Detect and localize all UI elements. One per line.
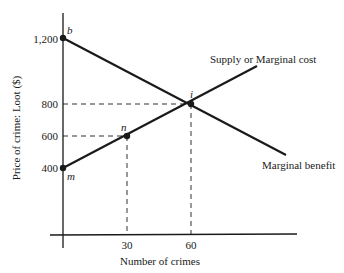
x-tick-60: 60: [186, 239, 198, 251]
x-tick-30: 30: [122, 239, 134, 251]
y-tick-600: 600: [42, 130, 59, 142]
supply-line: [63, 66, 257, 168]
marginal-benefit-label: Marginal benefit: [262, 159, 335, 171]
point-label-i: i: [190, 88, 193, 100]
point-label-b: b: [67, 24, 73, 36]
y-tick-1200: 1,200: [33, 33, 58, 45]
y-tick-800: 800: [42, 98, 59, 110]
y-tick-400: 400: [42, 162, 59, 174]
y-axis-title: Price of crime: Loot ($): [10, 75, 23, 180]
point-label-n: n: [121, 121, 127, 133]
point-i: [188, 101, 194, 107]
reference-lines: [63, 104, 191, 235]
point-n: [124, 133, 130, 139]
point-label-m: m: [67, 170, 75, 182]
supply-label: Supply or Marginal cost: [210, 53, 316, 65]
x-axis: [50, 234, 297, 235]
chart: b m n i 1,200 800 600 400 30 60 Number o…: [0, 0, 344, 273]
point-b: [60, 35, 66, 41]
x-axis-title: Number of crimes: [120, 255, 200, 267]
point-m: [60, 165, 66, 171]
